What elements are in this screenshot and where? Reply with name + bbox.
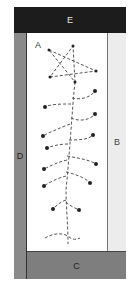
path-diagram <box>0 0 129 286</box>
